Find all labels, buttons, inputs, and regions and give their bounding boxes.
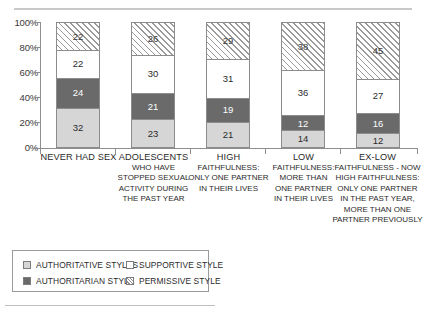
x-category-line: ACTIVITY DURING (119, 184, 189, 193)
x-category-line: ONLY ONE PARTNER (337, 184, 417, 193)
figure-caption (5, 310, 220, 322)
x-category-line: STOPPED SEXUAL (118, 173, 190, 182)
x-category-line: PARTNER PREVIOUSLY (332, 215, 422, 224)
segment-supportive[interactable]: 30 (131, 55, 175, 93)
segment-permissive[interactable]: 14 (281, 130, 325, 148)
legend-swatch-authoritarian-icon (23, 277, 31, 285)
x-category-line: WHO HAVE (132, 163, 175, 172)
bar-column-ex-low-faithfulness[interactable]: 12 16 27 45 (356, 22, 400, 148)
x-axis-line (40, 148, 418, 149)
x-category-line: HIGH FAITHFULNESS: (335, 173, 419, 182)
segment-authoritative[interactable]: 29 (206, 22, 250, 59)
y-axis-labels: 100% 80% 60% 40% 20% 0% (0, 18, 38, 148)
legend-item-supportive-style[interactable]: SUPPORTIVE STYLE (126, 260, 223, 270)
segment-permissive[interactable]: 12 (356, 133, 400, 148)
segment-authoritative[interactable]: 45 (356, 22, 400, 79)
y-axis-line (40, 22, 41, 148)
x-axis-category-labels: NEVER HAD SEX ADOLESCENTS WHO HAVE STOPP… (0, 152, 426, 244)
segment-authoritative[interactable]: 26 (131, 22, 175, 55)
legend-label: AUTHORITARIAN STYLE (36, 276, 135, 286)
top-divider-rule (14, 8, 412, 10)
x-category-line: FAITHFULNESS: (273, 163, 335, 172)
legend-swatch-supportive-icon (126, 261, 134, 269)
segment-authoritarian[interactable]: 21 (131, 93, 175, 120)
chart-plot-area: 100% 80% 60% 40% 20% 0% 32 24 22 22 23 2… (0, 18, 426, 148)
bar-column-stopped-sexual-activity[interactable]: 23 21 30 26 (131, 22, 175, 148)
segment-authoritative[interactable]: 38 (281, 22, 325, 70)
chart-legend: AUTHORITATIVE STYLES SUPPORTIVE STYLE AU… (12, 250, 209, 292)
legend-item-permissive-style[interactable]: PERMISSIVE STYLE (126, 276, 221, 286)
segment-authoritarian[interactable]: 24 (56, 78, 100, 108)
x-category-line: ONE PARTNER (275, 184, 332, 193)
x-category-label-ex-low-faithfulness: EX-LOW FAITHFULNESS - NOW HIGH FAITHFULN… (329, 152, 426, 226)
legend-swatch-authoritative-icon (23, 261, 31, 269)
segment-authoritarian[interactable]: 12 (281, 115, 325, 130)
legend-item-authoritarian-style[interactable]: AUTHORITARIAN STYLE (23, 276, 135, 286)
y-tick-mark-60 (34, 72, 40, 73)
segment-permissive[interactable]: 32 (56, 108, 100, 148)
bar-column-never-had-sex[interactable]: 32 24 22 22 (56, 22, 100, 148)
x-category-line: IN THEIR LIVES (274, 194, 333, 203)
x-category-line: MORE THAN ONE (344, 205, 411, 214)
segment-authoritative[interactable]: 22 (56, 22, 100, 50)
x-category-line: IN THE PAST YEAR, (340, 194, 415, 203)
x-category-line: FAITHFULNESS - NOW (334, 163, 420, 172)
segment-supportive[interactable]: 31 (206, 59, 250, 98)
legend-label: AUTHORITATIVE STYLES (36, 260, 138, 270)
caption-divider-rule (5, 305, 215, 306)
x-category-line: IN THEIR LIVES (199, 184, 258, 193)
x-category-head: EX-LOW (329, 152, 426, 163)
y-tick-mark-100 (34, 22, 40, 23)
y-tick-mark-80 (34, 47, 40, 48)
x-category-line: FAITHFULNESS: (198, 163, 260, 172)
y-tick-mark-20 (34, 122, 40, 123)
bar-column-low-faithfulness[interactable]: 14 12 36 38 (281, 22, 325, 148)
y-tick-mark-40 (34, 97, 40, 98)
bar-column-high-faithfulness[interactable]: 21 19 31 29 (206, 22, 250, 148)
legend-swatch-permissive-icon (126, 277, 134, 285)
segment-permissive[interactable]: 23 (131, 119, 175, 148)
x-category-line: MORE THAN (280, 173, 328, 182)
legend-label: SUPPORTIVE STYLE (139, 260, 223, 270)
segment-supportive[interactable]: 36 (281, 70, 325, 115)
legend-item-authoritative-styles[interactable]: AUTHORITATIVE STYLES (23, 260, 138, 270)
segment-authoritarian[interactable]: 16 (356, 113, 400, 133)
legend-label: PERMISSIVE STYLE (139, 276, 221, 286)
segment-supportive[interactable]: 22 (56, 50, 100, 78)
segment-permissive[interactable]: 21 (206, 122, 250, 149)
segment-authoritarian[interactable]: 19 (206, 98, 250, 122)
segment-supportive[interactable]: 27 (356, 79, 400, 113)
x-category-line: THE PAST YEAR (122, 194, 184, 203)
